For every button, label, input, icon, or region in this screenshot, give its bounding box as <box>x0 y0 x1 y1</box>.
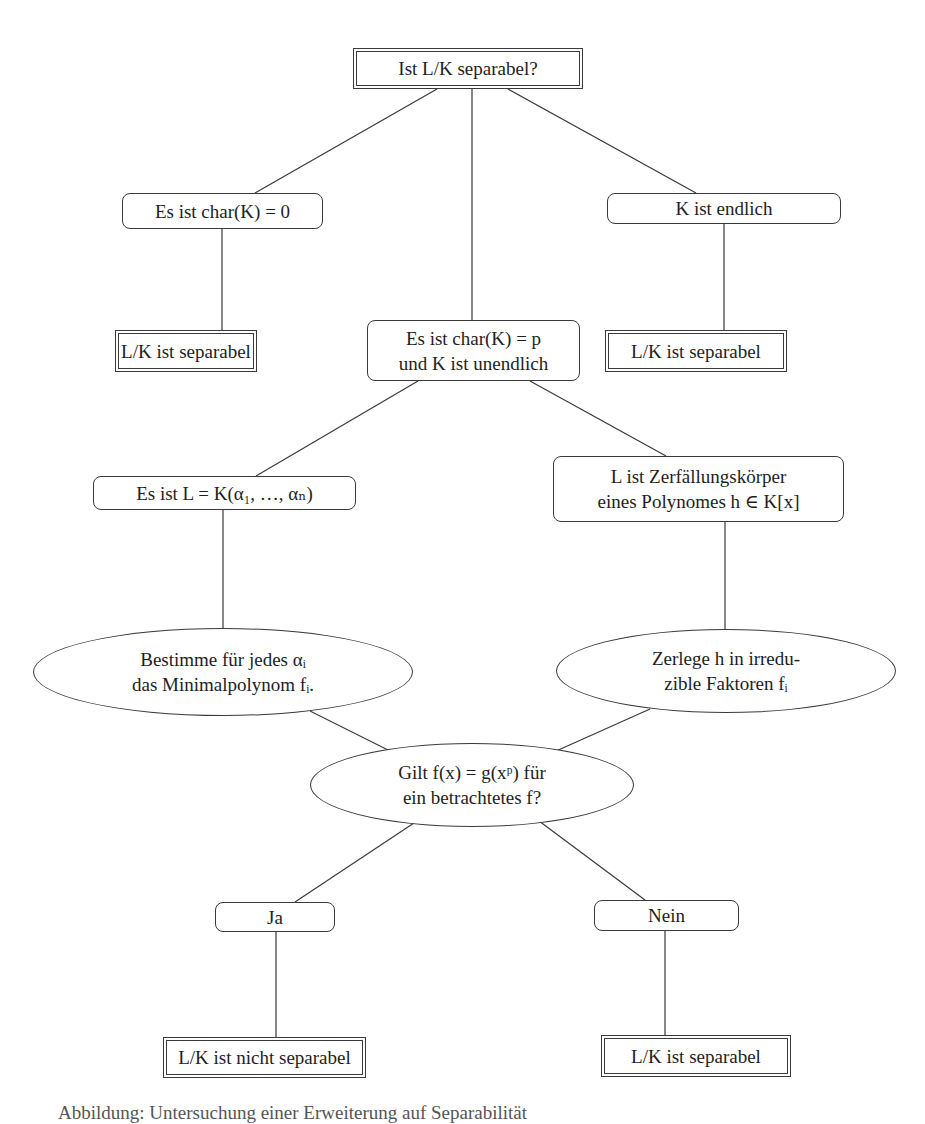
node-text: Es ist char(K) = p <box>406 326 541 351</box>
node-k-finite: K ist endlich <box>607 193 841 224</box>
node-text: zible Faktoren fᵢ <box>664 671 787 696</box>
edge-root-finite <box>508 89 696 193</box>
node-char-zero: Es ist char(K) = 0 <box>122 193 323 229</box>
edge-charp-splitting <box>530 381 666 456</box>
node-not-separable: L/K ist nicht separabel <box>163 1037 366 1078</box>
node-text: K ist endlich <box>675 196 772 221</box>
node-text: und K ist unendlich <box>399 351 548 376</box>
node-root-question: Ist L/K separabel? <box>353 48 583 89</box>
edge-question-yes <box>295 819 420 902</box>
edge-question-no <box>535 818 645 900</box>
node-no: Nein <box>594 900 739 931</box>
node-text: Zerlege h in irredu- <box>652 646 800 671</box>
node-char-p-infinite: Es ist char(K) = p und K ist unendlich <box>367 320 580 381</box>
node-text: Nein <box>648 903 685 928</box>
node-text: Es ist L = K(α₁, …, αₙ) <box>136 481 313 506</box>
node-factorize: Zerlege h in irredu- zible Faktoren fᵢ <box>556 629 896 713</box>
node-text: Es ist char(K) = 0 <box>155 199 290 224</box>
node-text: L ist Zerfällungskörper <box>611 464 787 489</box>
node-finitely-generated: Es ist L = K(α₁, …, αₙ) <box>93 476 356 510</box>
node-text: das Minimalpolynom fᵢ. <box>132 672 314 697</box>
node-text: Ja <box>267 905 283 930</box>
edge-root-char0 <box>255 89 437 193</box>
node-separable-right: L/K ist separabel <box>605 330 787 372</box>
node-text: ein betrachtetes f? <box>403 785 541 810</box>
figure-caption: Abbildung: Untersuchung einer Erweiterun… <box>58 1102 527 1124</box>
node-text: Gilt f(x) = g(xᵖ) für <box>398 760 545 785</box>
edge-charp-generated <box>256 381 418 476</box>
node-text: Bestimme für jedes αᵢ <box>140 647 306 672</box>
node-splitting-field: L ist Zerfällungskörper eines Polynomes … <box>553 456 844 522</box>
node-question-fxp: Gilt f(x) = g(xᵖ) für ein betrachtetes f… <box>310 743 634 827</box>
node-separable-bottom: L/K ist separabel <box>601 1035 791 1077</box>
node-separable-left: L/K ist separabel <box>115 330 257 372</box>
node-text: L/K ist separabel <box>631 1044 761 1069</box>
node-text: eines Polynomes h ∈ K[x] <box>598 489 800 514</box>
node-text: L/K ist separabel <box>631 339 761 364</box>
node-text: Ist L/K separabel? <box>398 56 537 81</box>
node-yes: Ja <box>215 902 335 932</box>
node-text: L/K ist separabel <box>121 339 251 364</box>
node-text: L/K ist nicht separabel <box>178 1045 351 1070</box>
node-minimal-polynomial: Bestimme für jedes αᵢ das Minimalpolynom… <box>33 628 413 716</box>
